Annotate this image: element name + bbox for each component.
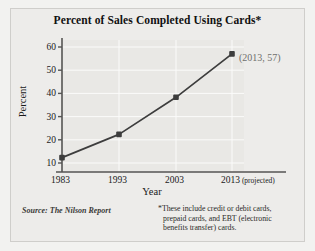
y-tick-label-10: 10 (34, 158, 56, 168)
x-axis-title: Year (62, 186, 242, 197)
x-tick-label-2013: 2013 (projected) (221, 175, 275, 186)
source-note: Source: The Nilson Report (22, 206, 111, 215)
footnote-line-1: *These include credit or debit cards, (158, 204, 298, 214)
x-tick-2013-year: 2013 (221, 175, 240, 185)
footnote: *These include credit or debit cards, pr… (158, 204, 298, 233)
y-tick-label-40: 40 (34, 88, 56, 98)
footnote-line-3: benefits transfer) cards. (158, 223, 298, 233)
x-tick-label-1983: 1983 (51, 175, 70, 185)
chart-title: Percent of Sales Completed Using Cards* (10, 14, 305, 26)
x-tick-label-1993: 1993 (108, 175, 127, 185)
y-axis-title: Percent (17, 72, 28, 132)
footnote-line-2: prepaid cards, and EBT (electronic (158, 214, 298, 224)
y-tick-label-30: 30 (34, 112, 56, 122)
x-tick-label-2003: 2003 (165, 175, 184, 185)
y-tick-label-20: 20 (34, 135, 56, 145)
data-point-annotation: (2013, 57) (239, 52, 281, 63)
y-tick-label-60: 60 (34, 42, 56, 52)
x-tick-2013-projected: (projected) (240, 176, 275, 185)
y-tick-label-50: 50 (34, 65, 56, 75)
figure-background: Percent of Sales Completed Using Cards* (0, 0, 315, 251)
